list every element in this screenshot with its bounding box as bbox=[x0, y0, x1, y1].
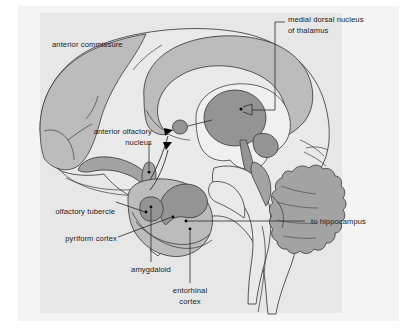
amygdaloid-dot bbox=[150, 206, 153, 209]
md-nucleus-dot bbox=[240, 108, 243, 111]
anterior-olfactory-nucleus-dot bbox=[148, 171, 151, 174]
entorhinal-dot-b bbox=[189, 228, 192, 231]
amygdala bbox=[140, 197, 163, 221]
olfactory-pathway-figure: anterior commissure medial dorsal nucleu… bbox=[0, 0, 415, 336]
olfactory-tubercle-dot bbox=[145, 211, 148, 214]
label-olfactory-tubercle: olfactory tubercle bbox=[55, 207, 115, 216]
pyriform-cortex-dot bbox=[172, 216, 175, 219]
brain-diagram-svg: anterior commissure medial dorsal nucleu… bbox=[0, 0, 415, 336]
anterior-commissure-body bbox=[173, 120, 188, 134]
label-entorhinal-cortex-line2: cortex bbox=[179, 297, 200, 306]
entorhinal-dot-a bbox=[185, 220, 188, 223]
label-pyriform-cortex: pyriform cortex bbox=[65, 234, 117, 243]
label-amygdaloid: amygdaloid bbox=[131, 265, 171, 274]
label-medial-dorsal-nucleus-line1: medial dorsal nucleus bbox=[288, 15, 364, 24]
label-to-hippocampus: to hippocampus bbox=[311, 217, 366, 226]
label-entorhinal-cortex-line1: entorhinal bbox=[173, 286, 208, 295]
label-medial-dorsal-nucleus-line2: of thalamus bbox=[288, 26, 328, 35]
label-anterior-olfactory-nucleus-line2: nucleus bbox=[125, 138, 152, 147]
label-anterior-olfactory-nucleus-line1: anterior olfactory bbox=[94, 127, 152, 136]
anterior-commissure-group bbox=[173, 120, 188, 134]
label-anterior-commissure: anterior commissure bbox=[52, 40, 123, 49]
